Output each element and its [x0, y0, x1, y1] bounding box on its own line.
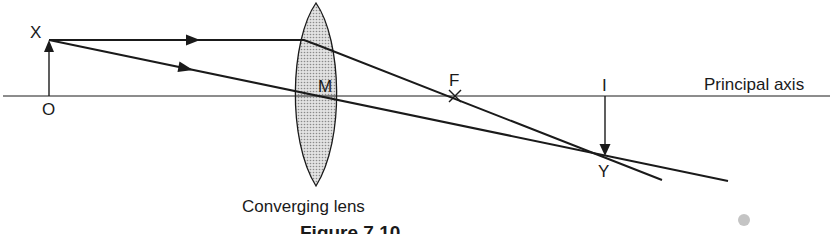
ray-through-centre	[49, 40, 728, 181]
label-object-top-x: X	[30, 24, 41, 41]
ray-diagram	[0, 0, 830, 234]
label-image-base-i: I	[602, 77, 607, 94]
label-optical-centre-m: M	[318, 78, 332, 95]
ray-parallel-arrowhead-icon	[186, 35, 200, 46]
smudge-dot	[738, 214, 750, 226]
label-principal-axis: Principal axis	[704, 76, 804, 93]
label-converging-lens: Converging lens	[242, 198, 365, 215]
object-arrowhead-icon	[44, 40, 54, 52]
ray-parallel	[49, 40, 662, 180]
label-focal-point-f: F	[449, 72, 459, 89]
label-image-top-y: Y	[598, 163, 609, 180]
label-object-base-o: O	[42, 101, 55, 118]
figure-caption: Figure 7.10	[300, 222, 400, 234]
